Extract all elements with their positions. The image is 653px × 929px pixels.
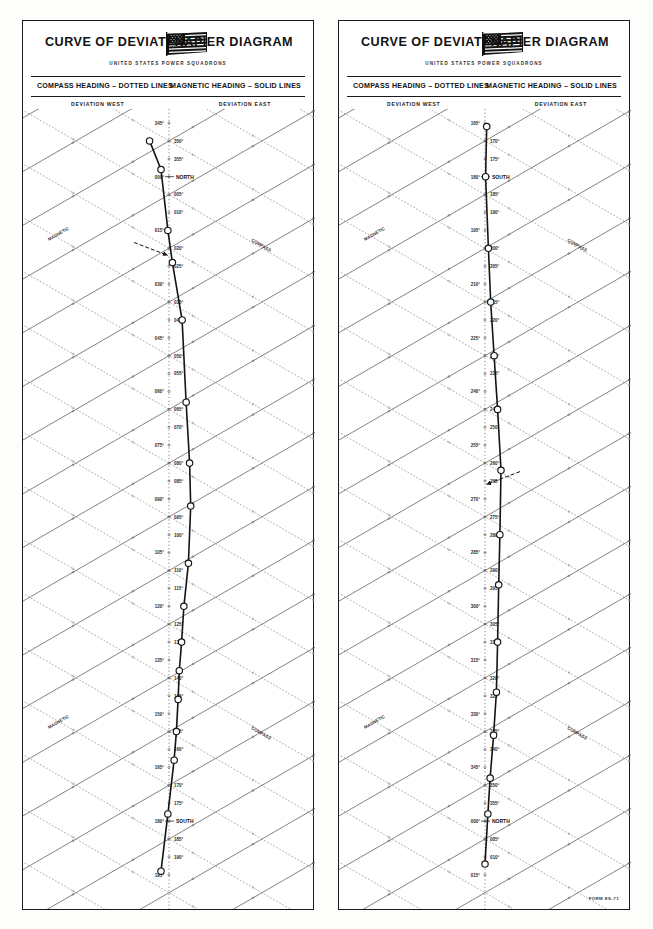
magnetic-axis-label: MAGNETIC (363, 225, 386, 241)
axis-tick-label: 330° (471, 712, 481, 717)
axis-tick-label: 320° (490, 676, 500, 681)
axis-tick (168, 265, 170, 267)
magnetic-grid-line (23, 109, 315, 228)
compass-grid-line (23, 806, 315, 909)
organization-subtitle: UNITED STATES POWER SQUADRONS (23, 61, 313, 66)
data-point (494, 406, 500, 412)
annotation-arrow (134, 242, 168, 255)
header-divider-bottom-2 (347, 96, 621, 97)
axis-tick-label: 000° (471, 819, 481, 824)
axis-tick-label: 345° (471, 765, 481, 770)
axis-tick (484, 265, 486, 267)
axis-tick-label: 010° (490, 855, 500, 860)
compass-axis-label: COMPASS (567, 238, 589, 253)
axis-tick-label: 070° (174, 425, 184, 430)
axis-tick (168, 319, 170, 321)
data-point (175, 696, 181, 702)
data-point (146, 138, 152, 144)
cardinal-label: NORTH (176, 174, 194, 180)
axis-tick (484, 211, 486, 213)
cardinal-label: SOUTH (492, 174, 510, 180)
data-point (485, 245, 491, 251)
axis-tick-label: 020° (174, 246, 184, 251)
axis-tick (484, 337, 486, 339)
panel-header-right: CURVE OF DEVIATIONS (339, 21, 629, 78)
data-point (158, 166, 164, 172)
data-point (491, 353, 497, 359)
axis-tick-label: 210° (471, 282, 481, 287)
panel-right: CURVE OF DEVIATIONS (338, 20, 630, 910)
magnetic-grid-line (339, 269, 631, 442)
page-title-right-2: NAPIER DIAGRAM (491, 35, 609, 49)
data-point (176, 668, 182, 674)
axis-tick-label: 045° (155, 336, 165, 341)
legend-compass-dotted: COMPASS HEADING – DOTTED LINES (37, 82, 173, 90)
axis-tick-label: 110° (174, 568, 183, 573)
legend-magnetic-solid: MAGNETIC HEADING – SOLID LINES (170, 82, 301, 90)
axis-tick (168, 211, 170, 213)
data-point (179, 317, 185, 323)
axis-tick-label: 175° (490, 157, 500, 162)
axis-tick-label: 075° (155, 443, 165, 448)
axis-tick-label: 170° (490, 139, 500, 144)
cardinal-label: NORTH (492, 818, 510, 824)
axis-tick-label: 275° (490, 515, 500, 520)
page-title-right: NAPIER DIAGRAM (175, 35, 293, 49)
axis-tick-label: 165° (471, 121, 481, 126)
deviation-curve (146, 138, 194, 875)
axis-tick-label: 190° (490, 210, 500, 215)
deviation-east-label-2: DEVIATION EAST (535, 101, 587, 107)
data-point (482, 174, 488, 180)
axis-tick-label: 085° (174, 479, 184, 484)
axis-tick-label: 205° (490, 264, 500, 269)
axis-tick-label: 055° (174, 371, 184, 376)
axis-tick-label: 225° (471, 336, 481, 341)
deviation-east-label: DEVIATION EAST (219, 101, 271, 107)
data-point (186, 460, 192, 466)
organization-subtitle-2: UNITED STATES POWER SQUADRONS (339, 61, 629, 66)
axis-tick-label: 015° (155, 228, 165, 233)
compass-grid-line (23, 109, 315, 120)
axis-tick-label: 185° (174, 837, 184, 842)
data-point (188, 503, 194, 509)
axis-tick-label: 180° (155, 819, 165, 824)
compass-axis-label: COMPASS (251, 238, 273, 253)
axis-tick-label: 170° (174, 783, 184, 788)
magnetic-axis-label: MAGNETIC (47, 225, 70, 241)
legend-bar-left: COMPASS HEADING – DOTTED LINES MAGNETIC … (23, 80, 313, 96)
axis-tick-label: 285° (471, 550, 481, 555)
data-point (488, 299, 494, 305)
axis-tick-label: 180° (471, 175, 481, 180)
legend-compass-dotted-2: COMPASS HEADING – DOTTED LINES (353, 82, 489, 90)
legend-magnetic-solid-2: MAGNETIC HEADING – SOLID LINES (486, 82, 617, 90)
axis-tick-label: 005° (490, 837, 500, 842)
magnetic-grid-line (23, 269, 315, 442)
axis-tick-label: 345° (155, 121, 165, 126)
data-point (487, 775, 493, 781)
data-point (178, 639, 184, 645)
axis-tick-label: 115° (174, 586, 183, 591)
panel-header-left: CURVE OF DEVIATIONS (23, 21, 313, 78)
panel-left: CURVE OF DEVIATIONS (22, 20, 314, 910)
data-point (484, 123, 490, 129)
deviation-west-label: DEVIATION WEST (71, 101, 124, 107)
axis-tick (484, 319, 486, 321)
data-point (490, 732, 496, 738)
axis-tick-label: 135° (155, 658, 165, 663)
axis-tick-label: 185° (490, 192, 500, 197)
axis-tick-label: 015° (471, 873, 481, 878)
axis-tick-label: 350° (490, 783, 500, 788)
data-point (158, 868, 164, 874)
cardinal-label: SOUTH (176, 818, 194, 824)
axis-tick-labels: 165°170°175°180°SOUTH185°190°195°200°205… (471, 121, 510, 878)
axis-tick-label: 050° (174, 354, 184, 359)
magnetic-grid-line (23, 806, 315, 909)
axis-tick-label: 255° (471, 443, 481, 448)
data-point (497, 532, 503, 538)
axis-tick-label: 010° (174, 210, 184, 215)
axis-tick-label: 340° (490, 747, 500, 752)
data-point (181, 603, 187, 609)
header-divider-bottom (31, 96, 305, 97)
napier-diagram-page: CURVE OF DEVIATIONS (0, 0, 653, 929)
data-point (173, 728, 179, 734)
